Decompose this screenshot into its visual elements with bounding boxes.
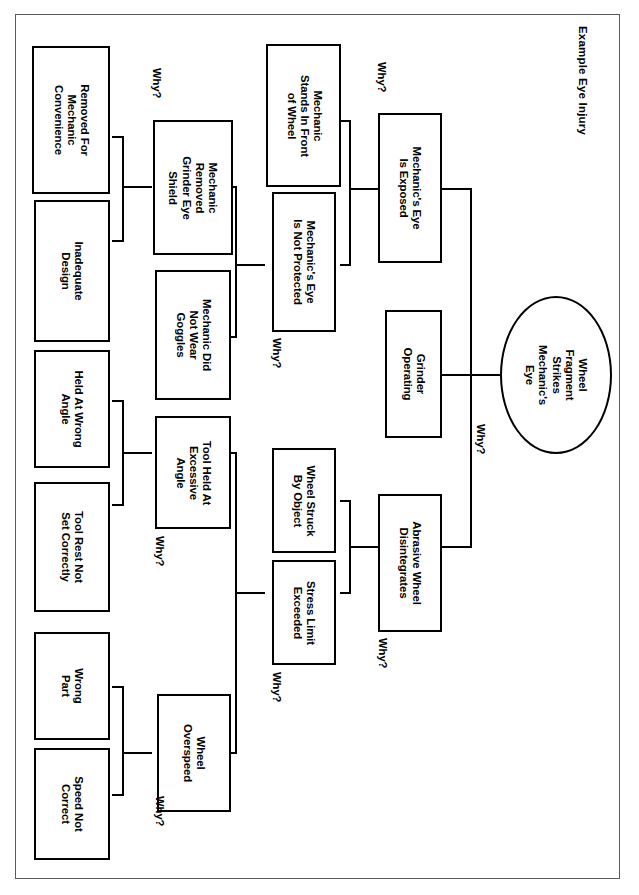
connector-disint-to-stress <box>340 592 351 594</box>
node-label: Wheel Overspeed <box>181 724 207 782</box>
connector-shield-in <box>122 186 152 188</box>
connector-shield-to-inadequate <box>112 240 124 242</box>
node-tool-held-at-excessive-angle[interactable]: Tool Held At Excessive Angle <box>155 416 231 529</box>
connector-exposed-to-stands <box>340 120 351 122</box>
node-label: Abrasive Wheel Disintegrates <box>397 521 423 604</box>
node-label: Wrong Part <box>59 668 85 703</box>
connector-stress-in <box>235 592 265 594</box>
node-label: Stress Limit Exceeded <box>291 580 317 644</box>
node-held-at-wrong-angle[interactable]: Held At Wrong Angle <box>34 350 110 468</box>
why-label-exposed: Why? <box>376 62 388 92</box>
why-label-tool-angle: Why? <box>154 536 166 566</box>
connector-exposed-bracket <box>349 120 351 266</box>
connector-exposed-to-notprot <box>340 264 351 266</box>
connector-root-stub <box>470 374 502 376</box>
connector-overspeed-bracket <box>122 686 124 796</box>
connector-exposed-in <box>349 188 379 190</box>
node-inadequate-design[interactable]: Inadequate Design <box>34 200 110 342</box>
diagram-page: Example Eye Injury Wheel Fragment Strike… <box>0 0 639 895</box>
why-label-not-protected: Why? <box>271 338 283 368</box>
node-mechanic-did-not-wear-goggles[interactable]: Mechanic Did Not Wear Goggles <box>155 270 231 400</box>
node-speed-not-correct[interactable]: Speed Not Correct <box>34 748 110 860</box>
node-label: Grinder Operating <box>400 348 426 401</box>
connector-toolangle-to-wrongangle <box>112 400 124 402</box>
node-stress-limit-exceeded[interactable]: Stress Limit Exceeded <box>272 560 336 665</box>
connector-stress-bracket <box>235 452 237 754</box>
node-label: Inadequate Design <box>59 241 85 300</box>
node-label: Removed For Mechanic Convenience <box>51 84 91 156</box>
page-title: Example Eye Injury <box>574 26 592 286</box>
node-label: Mechanic Did Not Wear Goggles <box>173 299 213 371</box>
connector-toolangle-bracket <box>122 400 124 506</box>
node-wheel-overspeed[interactable]: Wheel Overspeed <box>157 694 231 812</box>
node-removed-for-mechanic-convenience[interactable]: Removed For Mechanic Convenience <box>32 46 110 194</box>
node-grinder-operating[interactable]: Grinder Operating <box>385 310 442 438</box>
connector-shield-bracket <box>122 136 124 242</box>
connector-grinder-stub <box>441 374 472 376</box>
connector-notprot-bracket <box>235 186 237 338</box>
connector-disint-bracket <box>349 500 351 594</box>
node-label: Mechanic Stands In Front of Wheel <box>284 74 324 156</box>
connector-shield-to-convenience <box>112 136 124 138</box>
why-label-shield: Why? <box>151 68 163 98</box>
connector-toolangle-to-toolrest <box>112 504 124 506</box>
connector-root-spine <box>470 188 472 548</box>
why-label-overspeed: Why? <box>154 796 166 826</box>
connector-disint-in <box>349 546 379 548</box>
node-label: Speed Not Correct <box>59 776 85 831</box>
why-label-root: Why? <box>475 424 487 454</box>
node-label: Wheel Fragment Strikes Mechanic's Eye <box>523 345 589 405</box>
why-label-disintegrates: Why? <box>377 638 389 668</box>
node-label: Mechanic's Eye Is Not Protected <box>291 219 317 305</box>
node-wrong-part[interactable]: Wrong Part <box>34 632 110 740</box>
connector-toolangle-in <box>122 452 152 454</box>
connector-overspeed-to-wrongpart <box>112 686 124 688</box>
connector-notprot-in <box>235 264 265 266</box>
node-label: Mechanic's Eye Is Exposed <box>397 147 423 230</box>
connector-root-to-disintegrates <box>441 546 472 548</box>
node-root-wheel-fragment-strikes-eye[interactable]: Wheel Fragment Strikes Mechanic's Eye <box>500 296 612 454</box>
node-mechanics-eye-is-exposed[interactable]: Mechanic's Eye Is Exposed <box>378 113 442 263</box>
connector-root-to-exposed <box>441 188 472 190</box>
node-label: Tool Rest Not Set Correctly <box>59 511 85 583</box>
node-wheel-struck-by-object[interactable]: Wheel Struck By Object <box>272 448 336 553</box>
node-label: Tool Held At Excessive Angle <box>173 440 213 505</box>
node-mechanics-eye-is-not-protected[interactable]: Mechanic's Eye Is Not Protected <box>272 192 336 332</box>
node-label: Wheel Struck By Object <box>291 465 317 536</box>
node-label: Held At Wrong Angle <box>59 370 85 447</box>
node-mechanic-removed-grinder-eye-shield[interactable]: Mechanic Removed Grinder Eye Shield <box>153 120 233 255</box>
node-label: Mechanic Removed Grinder Eye Shield <box>167 156 220 219</box>
connector-disint-to-struck <box>340 500 351 502</box>
node-abrasive-wheel-disintegrates[interactable]: Abrasive Wheel Disintegrates <box>378 494 442 632</box>
node-tool-rest-not-set-correctly[interactable]: Tool Rest Not Set Correctly <box>34 482 110 612</box>
connector-overspeed-in <box>122 752 152 754</box>
node-mechanic-stands-in-front-of-wheel[interactable]: Mechanic Stands In Front of Wheel <box>266 44 341 187</box>
why-label-stress: Why? <box>271 672 283 702</box>
connector-overspeed-to-speednot <box>112 794 124 796</box>
